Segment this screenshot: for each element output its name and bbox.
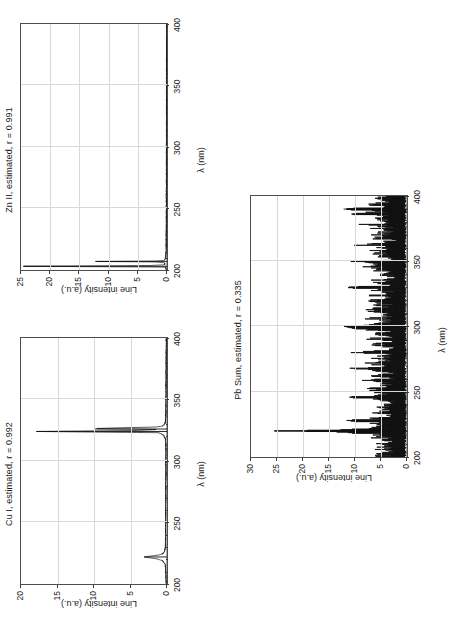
x-axis-title-pb: λ (nm) xyxy=(437,170,447,510)
y-tick-major xyxy=(20,585,21,588)
x-tick-minor xyxy=(406,222,408,223)
chart-area-zn: Zn II, estimated, r = 0.991 λ (nm) Line … xyxy=(0,0,228,320)
y-tick-label: 15 xyxy=(323,464,333,486)
plot-frame-pb xyxy=(250,195,408,458)
y-tick-label: 5 xyxy=(375,464,385,486)
gridline-horizontal xyxy=(109,24,110,270)
x-tick-label: 200 xyxy=(172,578,182,592)
gridline-vertical xyxy=(21,85,167,86)
x-tick-minor xyxy=(406,248,408,249)
x-tick-minor xyxy=(406,340,408,341)
x-tick-minor xyxy=(166,449,168,450)
spectrum-trace-zn xyxy=(21,24,167,270)
y-tick-label: 25 xyxy=(15,277,25,299)
y-tick-major xyxy=(130,585,131,588)
x-tick-major xyxy=(406,261,409,262)
y-tick-label: 30 xyxy=(245,464,255,486)
y-tick-major xyxy=(380,458,381,461)
x-tick-label: 400 xyxy=(172,18,182,32)
gridline-horizontal xyxy=(50,24,51,270)
x-tick-major xyxy=(166,338,169,339)
y-tick-label: 0 xyxy=(161,277,171,299)
y-tick-label: 5 xyxy=(125,591,135,613)
spectrum-polyline xyxy=(23,24,166,270)
y-tick-label: 0 xyxy=(161,591,171,613)
y-tick-label: 0 xyxy=(401,464,411,486)
y-tick-label: 25 xyxy=(271,464,281,486)
gridline-horizontal xyxy=(79,24,80,270)
plot-frame-cu xyxy=(20,337,168,585)
spectrum-polyline xyxy=(37,338,167,584)
gridline-horizontal xyxy=(303,196,304,457)
x-tick-minor xyxy=(166,424,168,425)
y-tick-label: 20 xyxy=(44,277,54,299)
x-tick-minor xyxy=(166,363,168,364)
x-tick-label: 300 xyxy=(172,141,182,155)
plot-frame-zn xyxy=(20,23,168,271)
gridline-vertical xyxy=(21,208,167,209)
y-tick-major xyxy=(328,458,329,461)
chart-title-cu: Cu I, estimated, r = 0.992 xyxy=(4,314,14,634)
x-tick-minor xyxy=(166,61,168,62)
x-tick-major xyxy=(166,400,169,401)
y-tick-major xyxy=(166,271,167,274)
x-tick-minor xyxy=(166,572,168,573)
gridline-horizontal xyxy=(355,196,356,457)
x-tick-minor xyxy=(166,258,168,259)
x-tick-minor xyxy=(166,559,168,560)
x-tick-minor xyxy=(166,350,168,351)
x-tick-minor xyxy=(406,287,408,288)
x-tick-minor xyxy=(166,233,168,234)
x-tick-minor xyxy=(406,274,408,275)
y-tick-major xyxy=(354,458,355,461)
y-tick-label: 10 xyxy=(349,464,359,486)
x-tick-minor xyxy=(166,110,168,111)
x-tick-minor xyxy=(406,209,408,210)
x-tick-label: 350 xyxy=(412,255,422,269)
x-tick-minor xyxy=(406,418,408,419)
y-tick-label: 10 xyxy=(103,277,113,299)
x-tick-major xyxy=(406,196,409,197)
x-tick-minor xyxy=(166,135,168,136)
x-tick-label: 200 xyxy=(412,451,422,465)
y-tick-major xyxy=(78,271,79,274)
x-tick-minor xyxy=(166,122,168,123)
x-tick-minor xyxy=(406,366,408,367)
x-tick-minor xyxy=(406,379,408,380)
y-tick-label: 20 xyxy=(15,591,25,613)
y-tick-label: 15 xyxy=(73,277,83,299)
x-tick-minor xyxy=(166,375,168,376)
figure-page: { "figure": { "background": "#ffffff", "… xyxy=(0,0,473,634)
x-tick-label: 400 xyxy=(412,190,422,204)
x-tick-minor xyxy=(166,98,168,99)
y-tick-label: 15 xyxy=(52,591,62,613)
y-tick-major xyxy=(302,458,303,461)
y-tick-major xyxy=(57,585,58,588)
x-tick-label: 250 xyxy=(172,516,182,530)
x-tick-label: 350 xyxy=(172,393,182,407)
y-axis-title-cu: Line intensity (a.u.) xyxy=(24,599,174,609)
x-tick-minor xyxy=(166,547,168,548)
y-tick-label: 5 xyxy=(132,277,142,299)
x-tick-minor xyxy=(166,473,168,474)
x-tick-minor xyxy=(406,300,408,301)
chart-area-cu: Cu I, estimated, r = 0.992 λ (nm) Line i… xyxy=(0,314,228,634)
panel-pb-sum: Pb Sum, estimated, r = 0.335 λ (nm) Line… xyxy=(228,170,471,510)
gridline-horizontal xyxy=(329,196,330,457)
gridline-horizontal xyxy=(58,338,59,584)
x-tick-label: 300 xyxy=(412,320,422,334)
x-tick-minor xyxy=(166,196,168,197)
gridline-horizontal xyxy=(94,338,95,584)
x-tick-major xyxy=(166,209,169,210)
x-axis-title-zn: λ (nm) xyxy=(196,0,206,320)
x-tick-minor xyxy=(166,73,168,74)
x-tick-major xyxy=(166,523,169,524)
y-tick-major xyxy=(20,271,21,274)
x-tick-minor xyxy=(406,353,408,354)
x-tick-minor xyxy=(166,498,168,499)
chart-title-pb: Pb Sum, estimated, r = 0.335 xyxy=(233,170,243,510)
chart-title-zn: Zn II, estimated, r = 0.991 xyxy=(4,0,14,320)
chart-area-pb: Pb Sum, estimated, r = 0.335 λ (nm) Line… xyxy=(228,170,471,510)
x-tick-minor xyxy=(166,159,168,160)
y-tick-major xyxy=(137,271,138,274)
